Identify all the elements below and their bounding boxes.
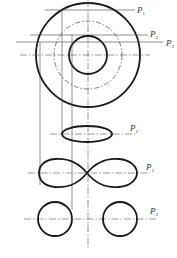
label-p3-section: P3 (149, 206, 159, 217)
label-p1-top: P1 (136, 5, 146, 16)
projection-lines (40, 10, 72, 210)
section-p1: P1 (50, 123, 139, 142)
torus-section-diagram: P1 P2 P3 P1 P2 P3 (0, 0, 177, 258)
label-p3-top: P3 (165, 38, 175, 49)
section-p2: P2 (28, 159, 155, 187)
section-p3: P3 (24, 202, 159, 236)
label-p2-top: P2 (149, 29, 159, 40)
label-p2-section: P2 (145, 162, 155, 173)
top-plane-labels: P1 P2 P3 (136, 5, 175, 49)
label-p1-section: P1 (129, 123, 139, 134)
